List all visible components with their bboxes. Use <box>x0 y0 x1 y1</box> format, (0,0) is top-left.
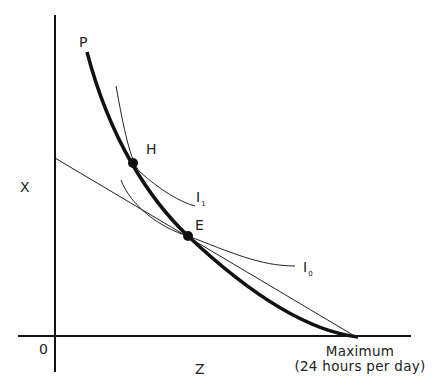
budget-line <box>55 158 358 338</box>
point-h-label: H <box>146 142 157 156</box>
point-e-label: E <box>195 218 204 232</box>
x-axis-label: Z <box>195 362 205 376</box>
origin-label: 0 <box>39 342 48 356</box>
indifference-i0-label: I0 <box>303 260 313 278</box>
x-max-label-line1: Maximum <box>288 344 432 359</box>
x-max-label-line2: (24 hours per day) <box>288 359 432 374</box>
i1-subscript: 1 <box>201 200 205 208</box>
point-e <box>183 231 193 241</box>
frontier-curve <box>87 52 358 337</box>
x-max-label: Maximum (24 hours per day) <box>288 344 432 374</box>
diagram-canvas <box>0 0 444 392</box>
i1-letter: I <box>196 189 200 205</box>
i0-subscript: 0 <box>308 270 312 278</box>
frontier-label: P <box>79 35 87 49</box>
y-axis-label: X <box>20 180 30 194</box>
indifference-i1-label: I1 <box>196 190 206 208</box>
point-h <box>128 158 138 168</box>
i0-letter: I <box>303 259 307 275</box>
